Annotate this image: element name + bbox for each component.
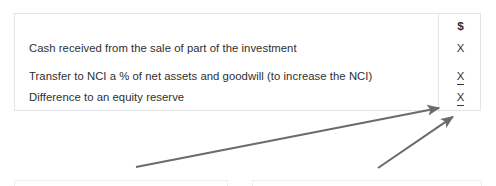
partial-box-right xyxy=(252,180,482,186)
arrow-to-total-row xyxy=(136,108,439,167)
amount-cell: X xyxy=(439,90,482,106)
amount-column-header: $ xyxy=(439,19,482,34)
amount-value: X xyxy=(457,69,465,85)
amount-value: X xyxy=(457,90,465,106)
arrow-to-difference-row xyxy=(378,117,453,168)
amount-value: X xyxy=(457,41,465,56)
amount-cell: X xyxy=(439,41,482,56)
description-column: Cash received from the sale of part of t… xyxy=(15,14,438,112)
partial-box-left xyxy=(14,180,228,186)
table-row-description: Difference to an equity reserve xyxy=(29,90,184,104)
table-row-description: Cash received from the sale of part of t… xyxy=(29,41,297,55)
currency-symbol: $ xyxy=(457,19,464,34)
amount-cell: X xyxy=(439,69,482,85)
amount-column: $ X X X xyxy=(439,14,482,112)
table-row-description: Transfer to NCI a % of net assets and go… xyxy=(29,69,372,83)
accounting-table: Cash received from the sale of part of t… xyxy=(14,13,481,111)
